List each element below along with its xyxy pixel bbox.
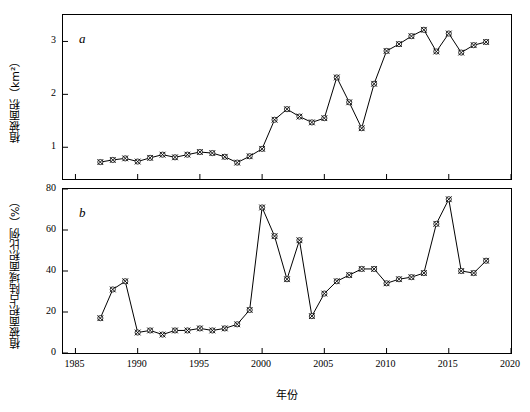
data-point-marker <box>185 152 191 158</box>
y-tick-label: 2 <box>32 87 56 98</box>
data-point-marker <box>110 157 116 163</box>
x-tick-label: 2000 <box>241 358 281 369</box>
data-point-marker <box>371 266 377 272</box>
y-tick-label: 20 <box>32 305 56 316</box>
data-point-marker <box>234 321 240 327</box>
data-point-marker <box>222 326 228 332</box>
data-point-marker <box>259 146 265 152</box>
data-point-marker <box>433 49 439 55</box>
data-point-marker <box>483 258 489 264</box>
data-point-marker <box>384 48 390 54</box>
data-point-marker <box>284 276 290 282</box>
x-tick-label: 2005 <box>303 358 343 369</box>
panel-b-y-axis-label: 植被面积占陆域面积比例（%） <box>8 192 24 352</box>
data-point-marker <box>135 159 141 165</box>
y-tick-label: 80 <box>32 182 56 193</box>
panel-a-y-axis-label: 植被面积（km²） <box>8 26 24 172</box>
data-point-marker <box>197 326 203 332</box>
data-point-marker <box>409 33 415 39</box>
data-point-marker <box>346 99 352 105</box>
x-tick-label: 1995 <box>179 358 219 369</box>
figure-container: 植被面积（km²） 植被面积占陆域面积比例（%） 年份 a b 12302040… <box>0 0 530 412</box>
data-point-marker <box>185 328 191 334</box>
data-point-marker <box>135 330 141 336</box>
data-point-marker <box>97 315 103 321</box>
data-point-marker <box>483 39 489 45</box>
data-point-marker <box>122 155 128 161</box>
data-point-marker <box>147 328 153 334</box>
data-point-marker <box>346 272 352 278</box>
data-point-marker <box>446 31 452 37</box>
data-point-marker <box>160 332 166 338</box>
data-point-marker <box>384 280 390 286</box>
data-point-marker <box>458 268 464 274</box>
x-tick-label: 2020 <box>490 358 530 369</box>
data-point-marker <box>371 81 377 87</box>
data-point-marker <box>209 150 215 156</box>
y-tick-label: 3 <box>32 34 56 45</box>
data-point-marker <box>396 276 402 282</box>
panel-a-chart <box>63 15 511 179</box>
data-point-marker <box>309 313 315 319</box>
x-tick-label: 1990 <box>117 358 157 369</box>
data-series-line <box>100 199 486 334</box>
data-point-marker <box>172 328 178 334</box>
data-point-marker <box>222 154 228 160</box>
x-tick-label: 1985 <box>54 358 94 369</box>
data-point-marker <box>122 278 128 284</box>
data-point-marker <box>297 114 303 120</box>
data-point-marker <box>409 274 415 280</box>
data-point-marker <box>433 221 439 227</box>
data-point-marker <box>446 196 452 202</box>
panel-b-chart <box>63 189 511 353</box>
data-point-marker <box>259 205 265 211</box>
data-point-marker <box>272 117 278 123</box>
data-point-marker <box>97 159 103 165</box>
data-point-marker <box>209 328 215 334</box>
y-tick-label: 40 <box>32 264 56 275</box>
data-point-marker <box>309 119 315 125</box>
x-tick-label: 2015 <box>428 358 468 369</box>
panel-b-plot-area: b <box>62 188 512 354</box>
panel-a-plot-area: a <box>62 14 512 180</box>
data-point-marker <box>297 237 303 243</box>
data-series-line <box>100 30 486 163</box>
data-point-marker <box>147 155 153 161</box>
data-point-marker <box>284 106 290 112</box>
data-point-marker <box>247 307 253 313</box>
data-point-marker <box>471 42 477 48</box>
y-tick-label: 1 <box>32 140 56 151</box>
data-point-marker <box>247 153 253 159</box>
data-point-marker <box>272 233 278 239</box>
data-point-marker <box>321 291 327 297</box>
y-tick-label: 0 <box>32 346 56 357</box>
data-point-marker <box>160 152 166 158</box>
data-point-marker <box>396 41 402 47</box>
data-point-marker <box>458 50 464 56</box>
data-point-marker <box>110 287 116 293</box>
data-point-marker <box>172 154 178 160</box>
x-axis-label: 年份 <box>62 386 512 402</box>
data-point-marker <box>421 270 427 276</box>
data-point-marker <box>471 270 477 276</box>
data-point-marker <box>359 125 365 131</box>
y-tick-label: 60 <box>32 223 56 234</box>
data-point-marker <box>334 75 340 81</box>
data-point-marker <box>234 160 240 166</box>
data-point-marker <box>321 115 327 121</box>
data-point-marker <box>197 149 203 155</box>
x-tick-label: 2010 <box>366 358 406 369</box>
data-point-marker <box>334 278 340 284</box>
data-point-marker <box>359 266 365 272</box>
data-point-marker <box>421 27 427 33</box>
